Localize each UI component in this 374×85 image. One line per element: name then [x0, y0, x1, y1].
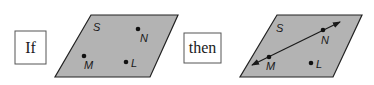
- then-box: then: [184, 33, 221, 63]
- point-l-dot: [124, 60, 129, 65]
- point-m-dot: [267, 55, 272, 60]
- point-l-label: L: [316, 58, 322, 70]
- right-plane-s: S N M L: [240, 15, 362, 77]
- point-n-dot: [136, 27, 141, 32]
- point-n-dot: [321, 28, 326, 33]
- left-plane-s: S N M L: [55, 15, 178, 77]
- if-label: If: [25, 39, 36, 56]
- point-n-label: N: [321, 34, 329, 46]
- point-l-dot: [309, 61, 314, 66]
- point-l-label: L: [131, 57, 137, 69]
- point-m-label: M: [84, 59, 94, 71]
- point-m-label: M: [266, 60, 276, 72]
- then-label: then: [189, 39, 217, 56]
- point-m-dot: [82, 54, 87, 59]
- plane-label-s: S: [93, 21, 101, 33]
- if-box: If: [15, 31, 46, 64]
- plane-label-s: S: [276, 22, 284, 34]
- point-n-label: N: [140, 32, 148, 44]
- postulate-diagram: If S N M L then S N M L: [0, 0, 374, 85]
